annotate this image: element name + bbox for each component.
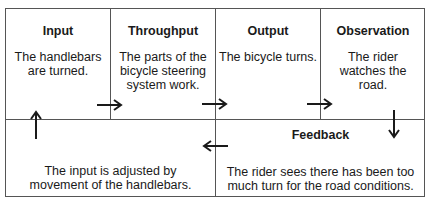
cell-input: Input The handlebars are turned.	[6, 24, 110, 78]
arrow-right-icon	[306, 98, 334, 110]
cell-output-body: The bicycle turns.	[216, 50, 320, 64]
cell-throughput-title: Throughput	[111, 24, 215, 39]
arrow-down-icon	[388, 109, 400, 139]
cell-observation: Observation The rider watches the road.	[321, 24, 425, 92]
cell-input-title: Input	[6, 24, 110, 39]
cell-throughput-body: The parts of the bicycle steering system…	[111, 50, 215, 92]
arrow-up-icon	[30, 110, 42, 140]
arrow-right-icon	[96, 99, 124, 111]
cell-output: Output The bicycle turns.	[216, 24, 320, 64]
arrow-left-icon	[201, 140, 229, 152]
arrow-right-icon	[201, 98, 229, 110]
cell-adjustment: The input is adjusted by movement of the…	[6, 164, 215, 192]
cell-observation-title: Observation	[321, 24, 425, 39]
cell-observation-body: The rider watches the road.	[321, 50, 425, 92]
cell-throughput: Throughput The parts of the bicycle stee…	[111, 24, 215, 92]
cell-feedback-body: The rider sees there has been too much t…	[216, 165, 425, 193]
cell-output-title: Output	[216, 24, 320, 39]
cell-adjustment-body: The input is adjusted by movement of the…	[6, 164, 215, 192]
cell-input-body: The handlebars are turned.	[6, 50, 110, 78]
